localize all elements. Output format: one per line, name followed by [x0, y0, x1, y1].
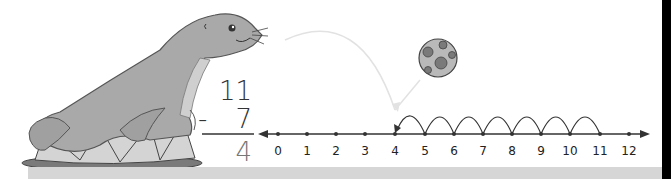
number-line — [258, 116, 650, 138]
arrow-right-icon — [640, 130, 650, 138]
bottom-divider — [28, 167, 662, 179]
tick-label-3: 3 — [353, 144, 377, 158]
minuend: 11 — [212, 76, 252, 106]
right-edge-border — [662, 0, 671, 179]
illustration-stage: 11 - 7 4 0 1 2 3 4 5 6 7 8 9 10 11 12 — [0, 0, 671, 179]
tick-label-6: 6 — [442, 144, 466, 158]
tick-label-8: 8 — [500, 144, 524, 158]
tick-label-7: 7 — [471, 144, 495, 158]
seal-eye-icon — [229, 25, 236, 32]
hop-arcs — [397, 116, 600, 134]
tick-label-1: 1 — [295, 144, 319, 158]
subtrahend: 7 — [212, 104, 252, 134]
tick-label-0: 0 — [266, 144, 290, 158]
ball-trajectory-arc — [285, 31, 395, 110]
spotted-ball-icon — [419, 39, 457, 77]
tick-label-10: 10 — [558, 144, 582, 158]
tick-label-12: 12 — [617, 144, 641, 158]
tick-label-9: 9 — [529, 144, 553, 158]
tick-label-2: 2 — [324, 144, 348, 158]
hop-arrowhead-icon — [394, 124, 401, 133]
tick-label-11: 11 — [588, 144, 612, 158]
tick-label-5: 5 — [413, 144, 437, 158]
difference: 4 — [212, 137, 252, 167]
tick-label-4: 4 — [383, 144, 407, 158]
arrow-left-icon — [258, 130, 268, 138]
